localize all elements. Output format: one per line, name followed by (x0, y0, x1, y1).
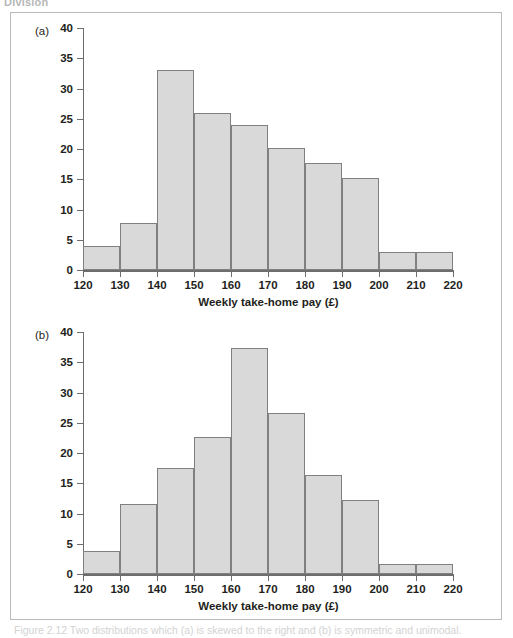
y-tick-label: 5 (67, 538, 73, 550)
histogram-bar (342, 178, 379, 270)
histogram-bar (379, 564, 416, 574)
y-tick-label: 35 (60, 52, 73, 64)
x-tick-mark (379, 271, 380, 277)
x-tick-label: 150 (184, 583, 203, 595)
y-tick-label: 10 (60, 508, 73, 520)
y-tick-mark (77, 393, 83, 394)
x-tick-label: 170 (258, 279, 277, 291)
x-tick-mark (342, 271, 343, 277)
y-tick-label: 10 (60, 204, 73, 216)
panel-a: (a) Weekly take-home pay (£) 05101520253… (11, 13, 503, 317)
x-tick-label: 220 (443, 583, 462, 595)
panel-a-plot-area (83, 28, 453, 270)
y-tick-mark (77, 514, 83, 515)
y-tick-label: 25 (60, 113, 73, 125)
histogram-bar (120, 504, 157, 574)
y-tick-label: 30 (60, 387, 73, 399)
figure-caption-cut: Figure 2.12 Two distributions which (a) … (14, 624, 510, 638)
histogram-bar (305, 163, 342, 270)
histogram-bar (268, 148, 305, 270)
y-tick-label: 20 (60, 143, 73, 155)
top-cut-text: Division (4, 0, 48, 8)
histogram-bar (268, 413, 305, 574)
y-tick-mark (77, 332, 83, 333)
histogram-bar (157, 468, 194, 574)
histogram-bar (231, 348, 268, 574)
histogram-bar (305, 475, 342, 574)
x-tick-mark (342, 575, 343, 581)
x-tick-mark (268, 575, 269, 581)
x-tick-label: 210 (406, 583, 425, 595)
y-tick-mark (77, 119, 83, 120)
x-tick-label: 200 (369, 279, 388, 291)
x-tick-label: 140 (147, 279, 166, 291)
y-tick-label: 35 (60, 356, 73, 368)
y-tick-mark (77, 179, 83, 180)
y-tick-label: 5 (67, 234, 73, 246)
y-tick-mark (77, 483, 83, 484)
x-tick-mark (453, 271, 454, 277)
y-tick-label: 0 (67, 264, 73, 276)
histogram-bar (120, 223, 157, 270)
x-tick-mark (194, 271, 195, 277)
x-tick-mark (83, 575, 84, 581)
x-tick-label: 130 (110, 279, 129, 291)
panel-a-label: (a) (35, 25, 49, 37)
histogram-bar (416, 252, 453, 270)
x-tick-mark (268, 271, 269, 277)
histogram-bar (379, 252, 416, 270)
y-tick-label: 30 (60, 83, 73, 95)
y-tick-mark (77, 362, 83, 363)
histogram-bar (157, 70, 194, 270)
x-tick-label: 180 (295, 279, 314, 291)
y-tick-mark (77, 58, 83, 59)
y-tick-mark (77, 210, 83, 211)
y-tick-mark (77, 544, 83, 545)
y-tick-mark (77, 149, 83, 150)
x-tick-mark (416, 575, 417, 581)
histogram-bar (194, 437, 231, 574)
histogram-bar (342, 500, 379, 574)
x-tick-label: 220 (443, 279, 462, 291)
x-tick-mark (379, 575, 380, 581)
x-tick-label: 150 (184, 279, 203, 291)
panel-a-x-axis-label: Weekly take-home pay (£) (83, 296, 454, 308)
x-tick-label: 200 (369, 583, 388, 595)
x-tick-mark (83, 271, 84, 277)
histogram-bar (416, 564, 453, 574)
panel-b-x-axis-label: Weekly take-home pay (£) (83, 600, 454, 612)
x-tick-mark (416, 271, 417, 277)
y-tick-mark (77, 240, 83, 241)
y-tick-mark (77, 89, 83, 90)
panel-b-label: (b) (35, 329, 49, 341)
panel-b: (b) Weekly take-home pay (£) 05101520253… (11, 317, 503, 621)
y-tick-label: 25 (60, 417, 73, 429)
histogram-bar (83, 551, 120, 574)
x-tick-mark (305, 575, 306, 581)
y-tick-mark (77, 28, 83, 29)
y-tick-mark (77, 423, 83, 424)
x-tick-mark (453, 575, 454, 581)
x-tick-label: 120 (73, 279, 92, 291)
x-tick-mark (231, 271, 232, 277)
x-tick-mark (305, 271, 306, 277)
x-tick-mark (120, 575, 121, 581)
x-tick-label: 120 (73, 583, 92, 595)
x-tick-label: 160 (221, 583, 240, 595)
x-tick-label: 180 (295, 583, 314, 595)
x-tick-label: 140 (147, 583, 166, 595)
x-tick-label: 190 (332, 279, 351, 291)
x-tick-mark (157, 271, 158, 277)
figure-frame: (a) Weekly take-home pay (£) 05101520253… (10, 12, 502, 620)
y-tick-label: 15 (60, 477, 73, 489)
histogram-bar (231, 125, 268, 270)
panel-b-plot-area (83, 332, 453, 574)
x-tick-label: 210 (406, 279, 425, 291)
x-tick-mark (231, 575, 232, 581)
x-tick-label: 130 (110, 583, 129, 595)
x-tick-mark (194, 575, 195, 581)
x-tick-mark (157, 575, 158, 581)
x-tick-label: 160 (221, 279, 240, 291)
x-tick-label: 170 (258, 583, 277, 595)
histogram-bar (194, 113, 231, 270)
